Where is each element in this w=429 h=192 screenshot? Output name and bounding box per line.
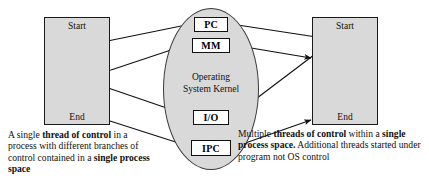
process-right-start-label: Start (313, 21, 377, 31)
caption-right-seg2: within a (346, 128, 382, 139)
process-box-left[interactable]: Start End (44, 17, 110, 125)
kernel-title-line2: System Kernel (163, 84, 259, 96)
diagram-canvas: Start End Start End Operating System Ker… (0, 0, 429, 192)
process-left-end-label: End (45, 112, 109, 122)
kernel-service-ipc[interactable]: IPC (191, 140, 231, 156)
caption-left-bold1: thread of control (42, 129, 111, 140)
process-left-start-label: Start (45, 21, 109, 31)
caption-right-bold1: threads of control (273, 128, 346, 139)
caption-left: A single thread of control in a process … (8, 129, 158, 175)
kernel-title-line1: Operating (163, 72, 259, 84)
process-box-right[interactable]: Start End (312, 17, 378, 125)
caption-left-seg1: A single (8, 129, 42, 140)
process-right-end-label: End (313, 112, 377, 122)
kernel-service-pc[interactable]: PC (194, 17, 228, 32)
kernel-service-io[interactable]: I/O (193, 110, 229, 125)
kernel-title: Operating System Kernel (163, 72, 259, 95)
kernel-service-mm[interactable]: MM (192, 38, 230, 53)
caption-right-seg1: Multiple (238, 128, 273, 139)
caption-right: Multiple threads of control within a sin… (238, 128, 428, 162)
